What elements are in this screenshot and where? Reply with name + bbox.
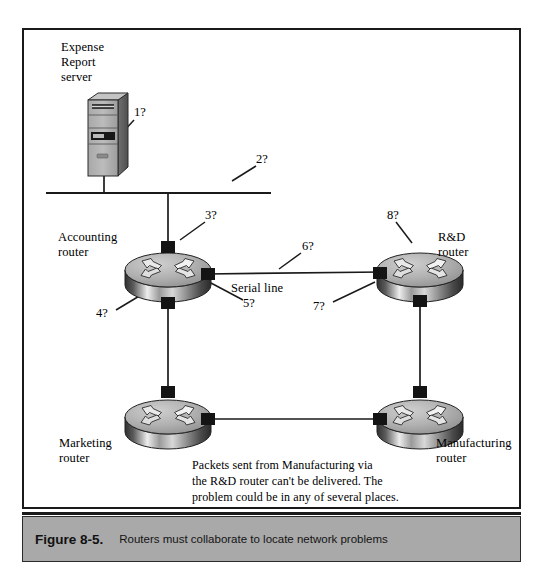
node-label-manufacturing: Manufacturing router xyxy=(436,436,512,466)
callout-label-7: 7? xyxy=(313,299,325,314)
callout-label-8: 8? xyxy=(387,208,399,223)
node-label-marketing: Marketing router xyxy=(59,436,112,466)
figure-caption-bar: Figure 8-5. Routers must collaborate to … xyxy=(22,516,521,562)
figure-number: Figure 8-5. xyxy=(35,532,103,547)
node-label-server: Expense Report server xyxy=(61,40,104,84)
figure-page: Expense Report server Accounting router … xyxy=(0,0,551,582)
caption-top-rule xyxy=(22,512,521,515)
callout-label-2: 2? xyxy=(256,152,268,167)
serial-line-label: Serial line xyxy=(231,281,283,296)
callout-label-1: 1? xyxy=(134,105,146,120)
node-label-accounting: Accounting router xyxy=(58,230,117,260)
node-label-rnd: R&D router xyxy=(438,230,468,260)
callout-label-3: 3? xyxy=(205,208,217,223)
callout-label-6: 6? xyxy=(302,239,314,254)
callout-label-4: 4? xyxy=(96,306,108,321)
figure-caption-text: Routers must collaborate to locate netwo… xyxy=(119,533,387,545)
diagram-note: Packets sent from Manufacturing via the … xyxy=(192,458,424,506)
callout-label-5: 5? xyxy=(243,296,255,311)
